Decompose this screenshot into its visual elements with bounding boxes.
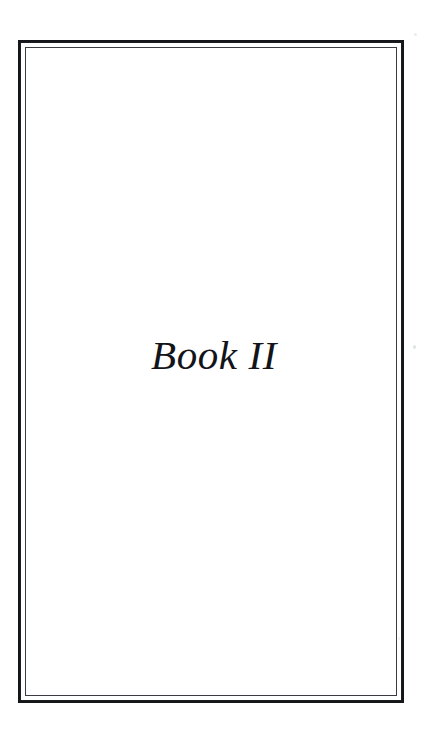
page-title: Book II bbox=[151, 335, 277, 376]
scan-speck-top-right bbox=[414, 33, 417, 36]
scan-speck-right-margin bbox=[413, 345, 416, 349]
page-border-inner-rule: Book II bbox=[25, 47, 397, 696]
page-sheet: Book II bbox=[0, 0, 427, 748]
title-block: Book II bbox=[26, 335, 396, 376]
page-border-frame: Book II bbox=[18, 40, 404, 703]
